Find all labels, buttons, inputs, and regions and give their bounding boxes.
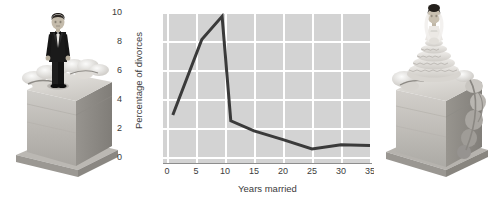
plot-area	[163, 12, 372, 163]
divorce-data-line	[163, 12, 372, 163]
y-tick-6: 6	[102, 66, 122, 75]
divorce-rate-figure: 10 8 6 4 2 0 0 5 10 15 20 25 30 35 Years…	[0, 0, 500, 201]
y-tick-2: 2	[102, 124, 122, 133]
x-tick-15: 15	[242, 167, 266, 176]
x-tick-0: 0	[155, 167, 179, 176]
divorce-line-chart: 10 8 6 4 2 0 0 5 10 15 20 25 30 35 Years…	[124, 0, 376, 201]
x-tick-10: 10	[213, 167, 237, 176]
x-axis-title: Years married	[163, 183, 372, 194]
x-tick-30: 30	[329, 167, 353, 176]
x-axis-line	[163, 163, 372, 164]
y-tick-0: 0	[102, 153, 122, 162]
y-tick-4: 4	[102, 95, 122, 104]
x-tick-20: 20	[271, 167, 295, 176]
x-tick-5: 5	[184, 167, 208, 176]
y-axis-title: Percentage of divorces	[133, 5, 144, 156]
y-tick-8: 8	[102, 37, 122, 46]
bride-cake-illustration	[374, 0, 500, 201]
x-tick-25: 25	[300, 167, 324, 176]
bride-cake-photo	[374, 0, 500, 201]
y-tick-10: 10	[102, 8, 122, 17]
